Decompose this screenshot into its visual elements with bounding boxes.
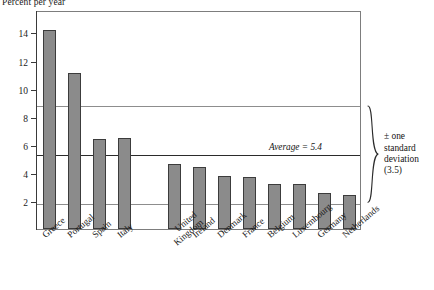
- bar-united-kingdom: [168, 164, 181, 229]
- y-tick-10: 10: [31, 90, 37, 91]
- std-deviation-note: ± one standard deviation (3.5): [384, 131, 434, 177]
- y-tick-4: 4: [31, 174, 37, 175]
- y-tick-label-10: 10: [19, 85, 29, 95]
- std-deviation-brace-icon: [366, 105, 380, 203]
- y-tick-label-4: 4: [23, 170, 28, 180]
- bar-france: [243, 177, 256, 229]
- bar-portugal: [68, 73, 81, 229]
- bar-ireland: [193, 167, 206, 229]
- y-tick-8: 8: [31, 118, 37, 119]
- bar-greece: [43, 30, 56, 229]
- y-axis-title: Percent per year: [2, 0, 65, 7]
- bar-luxembourg: [293, 184, 306, 229]
- sd-note-line-3: deviation: [384, 154, 434, 165]
- y-tick-label-12: 12: [19, 57, 29, 67]
- average-annotation: Average = 5.4: [269, 142, 322, 152]
- y-axis: 2468101214: [36, 11, 37, 230]
- bar-italy: [118, 138, 131, 229]
- sd-note-line-2: standard: [384, 143, 434, 154]
- bar-spain: [93, 139, 106, 229]
- y-tick-2: 2: [31, 202, 37, 203]
- sd-note-line-4: (3.5): [384, 165, 434, 176]
- chart-figure: Percent per year 2468101214 GreecePortug…: [0, 0, 434, 290]
- bar-denmark: [218, 176, 231, 229]
- y-tick-12: 12: [31, 62, 37, 63]
- y-tick-label-14: 14: [19, 29, 29, 39]
- bar-netherlands: [343, 195, 356, 229]
- y-tick-label-8: 8: [23, 113, 28, 123]
- y-tick-label-2: 2: [23, 198, 28, 208]
- bar-germany: [318, 193, 331, 229]
- bars-layer: [37, 12, 360, 229]
- plot-area: [36, 11, 361, 230]
- bar-belgium: [268, 184, 281, 229]
- y-tick-6: 6: [31, 146, 37, 147]
- y-tick-14: 14: [31, 33, 37, 34]
- sd-note-line-1: ± one: [384, 131, 434, 142]
- y-tick-label-6: 6: [23, 142, 28, 152]
